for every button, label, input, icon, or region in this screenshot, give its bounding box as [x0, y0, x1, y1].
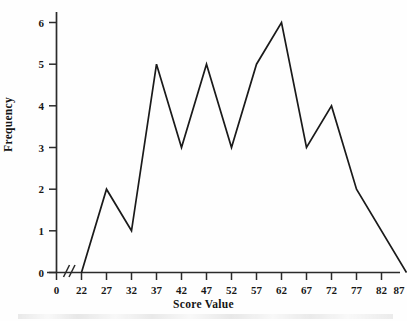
x-tick-label-32: 32: [126, 285, 137, 296]
frequency-polygon-figure: 0 1 2 3 4 5 6 0 22 27 32 37 42 47 52 57 …: [0, 0, 407, 321]
x-tick-label-72: 72: [326, 285, 337, 296]
x-tick-label-87: 87: [394, 285, 405, 296]
x-tick-label-42: 42: [176, 285, 187, 296]
y-tick-label-4: 4: [30, 100, 44, 111]
y-axis-title: Frequency: [2, 97, 14, 152]
y-tick-label-2: 2: [30, 184, 44, 195]
x-tick-label-67: 67: [301, 285, 312, 296]
x-tick-label-47: 47: [201, 285, 212, 296]
chart-plot-area: [0, 0, 407, 321]
y-tick-label-5: 5: [30, 59, 44, 70]
x-tick-label-62: 62: [276, 285, 287, 296]
x-tick-label-82: 82: [376, 285, 387, 296]
x-tick-label-37: 37: [151, 285, 162, 296]
x-axis-title: Score Value: [0, 298, 407, 310]
x-tick-label-77: 77: [351, 285, 362, 296]
y-axis-ticks: [49, 23, 57, 273]
y-tick-label-6: 6: [30, 17, 44, 28]
y-tick-label-0: 0: [30, 267, 44, 278]
frequency-polygon-line: [82, 23, 407, 273]
x-tick-label-22: 22: [76, 285, 87, 296]
x-tick-label-0: 0: [54, 285, 60, 296]
x-tick-label-52: 52: [226, 285, 237, 296]
y-tick-label-1: 1: [30, 225, 44, 236]
y-tick-label-3: 3: [30, 142, 44, 153]
x-tick-label-27: 27: [101, 285, 112, 296]
x-axis-ticks: [57, 273, 382, 281]
x-axis-break-icon: [64, 265, 76, 277]
x-tick-label-57: 57: [251, 285, 262, 296]
